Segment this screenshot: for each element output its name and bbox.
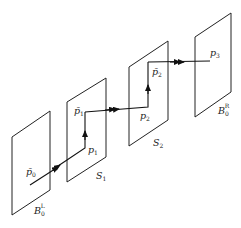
label-p2: p2 xyxy=(140,110,150,122)
label-pbar0: p̄0 xyxy=(26,166,36,178)
label-s1: S1 xyxy=(96,170,106,182)
plane-b0-left xyxy=(12,111,50,215)
label-s2: S2 xyxy=(153,137,164,149)
label-b0-left: B0L xyxy=(33,202,45,217)
trajectory-path xyxy=(30,61,210,185)
label-p3: p3 xyxy=(210,47,220,59)
label-pbar2: p̄2 xyxy=(152,66,162,78)
label-pbar1: p̄1 xyxy=(74,105,84,117)
label-b0-right: B0R xyxy=(217,102,230,117)
label-p1: p1 xyxy=(88,144,98,156)
plane-s1 xyxy=(67,78,106,182)
path-diagram: p̄0 p1 p̄1 p2 p̄2 p3 B0L S1 S2 B0R xyxy=(0,0,241,228)
